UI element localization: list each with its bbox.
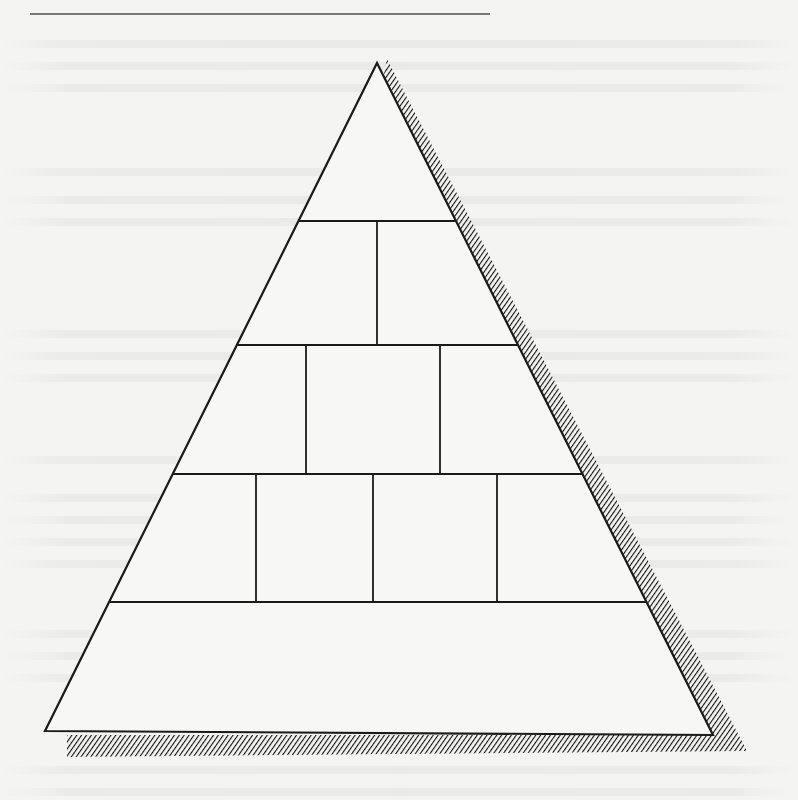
pyramid-outline: [45, 63, 713, 735]
triangle-outline: [45, 63, 713, 735]
scanned-page: [0, 0, 798, 800]
pyramid-diagram: [0, 0, 798, 800]
